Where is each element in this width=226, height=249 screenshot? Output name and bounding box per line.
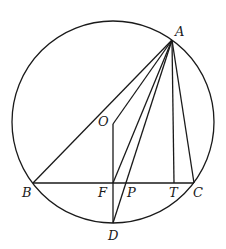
- segment-ac: [172, 40, 194, 183]
- segment-at: [172, 40, 174, 183]
- label-c: C: [193, 185, 203, 200]
- label-o: O: [98, 114, 109, 129]
- label-d: D: [107, 228, 119, 243]
- label-f: F: [97, 185, 108, 200]
- label-p: P: [126, 185, 136, 200]
- segment-ab: [33, 40, 172, 183]
- label-b: B: [21, 185, 32, 200]
- label-t: T: [169, 185, 179, 200]
- segment-ad: [113, 40, 172, 223]
- label-a: A: [174, 24, 184, 39]
- geometry-diagram: A O B F P T C D: [0, 0, 226, 249]
